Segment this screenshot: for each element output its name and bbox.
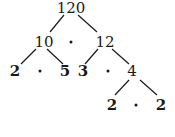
leaf-3: 3 bbox=[78, 64, 88, 79]
edge-120-10 bbox=[50, 15, 64, 32]
multiply-dot bbox=[70, 41, 73, 44]
leaf-2: 2 bbox=[107, 98, 117, 113]
multiply-dot bbox=[135, 104, 138, 107]
root-node: 120 bbox=[57, 1, 86, 16]
factor-tree: 120 10 12 2 5 3 4 2 2 bbox=[0, 0, 175, 137]
node-10: 10 bbox=[34, 35, 53, 50]
edge-4-2b bbox=[140, 80, 157, 95]
edge-120-12 bbox=[78, 15, 97, 32]
leaf-2: 2 bbox=[156, 98, 166, 113]
edge-10-2 bbox=[21, 49, 36, 64]
node-4: 4 bbox=[127, 64, 137, 79]
leaf-2: 2 bbox=[10, 64, 20, 79]
multiply-dot bbox=[39, 70, 42, 73]
node-12: 12 bbox=[95, 35, 114, 50]
edge-4-2a bbox=[115, 80, 129, 95]
multiply-dot bbox=[107, 70, 110, 73]
leaf-5: 5 bbox=[60, 64, 70, 79]
